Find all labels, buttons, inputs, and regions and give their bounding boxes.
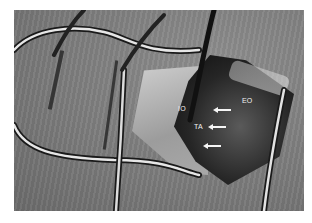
retractor-instruments bbox=[14, 10, 304, 211]
arrow-left-icon bbox=[203, 143, 221, 149]
surgical-photo: IO EO TA bbox=[14, 10, 304, 211]
label-ta: TA bbox=[194, 123, 203, 130]
arrow-left-icon bbox=[208, 124, 226, 130]
label-eo: EO bbox=[242, 97, 253, 104]
arrow-left-icon bbox=[213, 107, 231, 113]
label-io: IO bbox=[178, 105, 186, 112]
